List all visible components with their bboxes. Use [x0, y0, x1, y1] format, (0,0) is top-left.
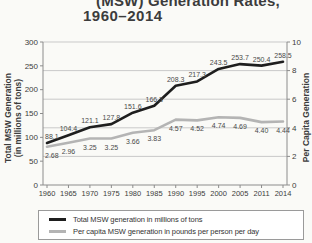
x-axis-tick-label: 1980	[124, 189, 141, 198]
x-axis-tick-label: 1990	[167, 189, 184, 198]
data-point-label: 208.3	[167, 76, 185, 83]
legend-label-per-capita: Per capita MSW generation in pounds per …	[73, 227, 259, 236]
x-axis-tick-label: 1985	[146, 189, 163, 198]
x-axis-tick-label: 1970	[82, 189, 99, 198]
data-point-label: 4.40	[255, 127, 269, 134]
right-axis-tick-label: 0	[292, 181, 297, 190]
left-axis-tick-label: 250	[25, 62, 39, 71]
left-axis-title-line2: (in millions of tons)	[14, 48, 24, 188]
data-point-label: 3.83	[147, 135, 161, 142]
x-axis-tick-label: 2011	[253, 189, 269, 198]
data-point-label: 4.74	[212, 122, 226, 129]
data-point-label: 151.6	[124, 103, 142, 110]
chart-legend: Total MSW generation in millions of tons…	[38, 210, 304, 240]
data-point-label: 127.8	[103, 114, 121, 121]
right-axis-tick-label: 8	[292, 66, 297, 75]
right-axis-tick-label: 10	[292, 38, 301, 47]
data-point-label: 253.7	[231, 54, 249, 61]
data-point-label: 2.68	[45, 152, 59, 159]
data-point-label: 4.44	[276, 127, 290, 134]
total-msw-line	[47, 62, 283, 143]
x-axis-tick-label: 2000	[210, 189, 227, 198]
data-point-label: 3.25	[105, 144, 119, 151]
right-axis-tick-label: 6	[292, 95, 297, 104]
x-axis-tick-label: 2005	[232, 189, 249, 198]
left-axis-tick-label: 150	[25, 109, 39, 118]
total-msw-line-swatch-icon	[49, 218, 66, 221]
legend-item-total-msw: Total MSW generation in millions of tons	[49, 214, 303, 224]
per-capita-line-swatch-icon	[49, 230, 66, 233]
data-point-label: 3.66	[126, 138, 140, 145]
x-axis-tick-label: 1960	[39, 189, 56, 198]
data-point-label: 258.5	[274, 52, 292, 59]
data-point-label: 166.3	[146, 96, 164, 103]
legend-item-per-capita: Per capita MSW generation in pounds per …	[49, 226, 303, 236]
left-axis-tick-label: 200	[25, 85, 39, 94]
x-axis-tick-label: 1965	[60, 189, 77, 198]
x-axis-tick-label: 1975	[103, 189, 120, 198]
left-axis-title: Total MSW Generation (in millions of ton…	[4, 48, 24, 188]
legend-label-total-msw: Total MSW generation in millions of tons	[73, 215, 202, 224]
data-point-label: 243.5	[210, 59, 228, 66]
data-point-label: 2.96	[62, 148, 76, 155]
data-point-label: 4.52	[190, 125, 204, 132]
right-axis-title: Per Capita Generation	[301, 48, 312, 188]
data-point-label: 217.3	[188, 71, 206, 78]
right-axis-tick-label: 4	[292, 124, 297, 133]
data-point-label: 104.4	[60, 125, 78, 132]
left-axis-tick-label: 100	[25, 133, 39, 142]
data-point-label: 88.1	[45, 133, 59, 140]
data-point-label: 121.1	[81, 117, 99, 124]
data-point-label: 4.69	[233, 123, 247, 130]
left-axis-tick-label: 50	[29, 157, 38, 166]
x-axis-tick-label: 1995	[189, 189, 206, 198]
data-point-label: 3.25	[83, 144, 97, 151]
data-point-label: 250.4	[253, 56, 271, 63]
msw-generation-chart-page: (MSW) Generation Rates, 1960–2014 300250…	[0, 0, 312, 243]
chart-canvas: 3002502001501005001086420196019651970197…	[0, 0, 312, 243]
data-point-label: 4.57	[169, 125, 183, 132]
left-axis-tick-label: 300	[25, 38, 39, 47]
x-axis-tick-label: 2014	[275, 189, 292, 198]
right-axis-tick-label: 2	[292, 152, 297, 161]
